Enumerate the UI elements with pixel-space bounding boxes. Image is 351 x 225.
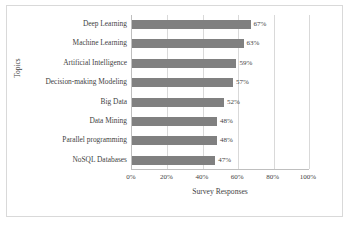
category-label: Decision-making Modeling (46, 76, 128, 88)
gridline (309, 15, 310, 169)
x-tick-label: 80% (266, 172, 279, 183)
chart-frame: Topics Deep LearningMachine LearningArti… (6, 5, 343, 217)
bar-value-label: 63% (247, 37, 260, 49)
category-label: Artificial Intelligence (63, 57, 127, 69)
bar-value-label: 59% (239, 57, 252, 69)
x-tick-label: 100% (300, 172, 316, 183)
bar[interactable] (132, 59, 236, 68)
bar-value-label: 52% (227, 96, 240, 108)
bar-row[interactable]: 47% (132, 151, 309, 170)
bar-row[interactable]: 63% (132, 34, 309, 53)
category-label: Parallel programming (62, 134, 127, 146)
bar-value-label: 48% (220, 134, 233, 146)
bar[interactable] (132, 98, 224, 107)
x-tick-label: 40% (195, 172, 208, 183)
bar-value-label: 48% (220, 115, 233, 127)
bar[interactable] (132, 20, 251, 29)
plot-area: 67%63%59%57%52%48%48%47% (131, 15, 309, 170)
x-tick-label: 20% (160, 172, 173, 183)
category-label: Deep Learning (83, 18, 127, 30)
x-axis-title: Survey Responses (131, 186, 309, 198)
bar[interactable] (132, 39, 244, 48)
x-tick-label: 60% (231, 172, 244, 183)
bar-row[interactable]: 48% (132, 112, 309, 131)
category-label: Data Mining (89, 115, 127, 127)
category-label: Machine Learning (73, 37, 127, 49)
category-label: NoSQL Databases (72, 154, 127, 166)
bar-row[interactable]: 67% (132, 15, 309, 34)
bar[interactable] (132, 136, 217, 145)
bar-value-label: 67% (254, 18, 267, 30)
bar-value-label: 47% (218, 154, 231, 166)
bar-value-label: 57% (236, 76, 249, 88)
category-axis-labels: Deep LearningMachine LearningArtificial … (7, 15, 127, 170)
bar-row[interactable]: 59% (132, 54, 309, 73)
x-axis-tick-labels: 0%20%40%60%80%100% (131, 172, 309, 186)
bar-row[interactable]: 48% (132, 131, 309, 150)
category-label: Big Data (101, 96, 127, 108)
bar-row[interactable]: 57% (132, 73, 309, 92)
bar[interactable] (132, 78, 233, 87)
bar[interactable] (132, 117, 217, 126)
bar[interactable] (132, 156, 215, 165)
x-tick-label: 0% (126, 172, 135, 183)
bar-row[interactable]: 52% (132, 93, 309, 112)
